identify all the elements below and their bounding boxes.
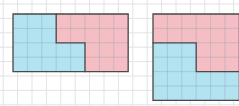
right-figure: [152, 13, 238, 99]
right-figure-svg: [152, 13, 239, 101]
left-figure: [12, 13, 127, 71]
left-figure-svg: [12, 13, 129, 73]
figure-canvas: [0, 0, 239, 106]
